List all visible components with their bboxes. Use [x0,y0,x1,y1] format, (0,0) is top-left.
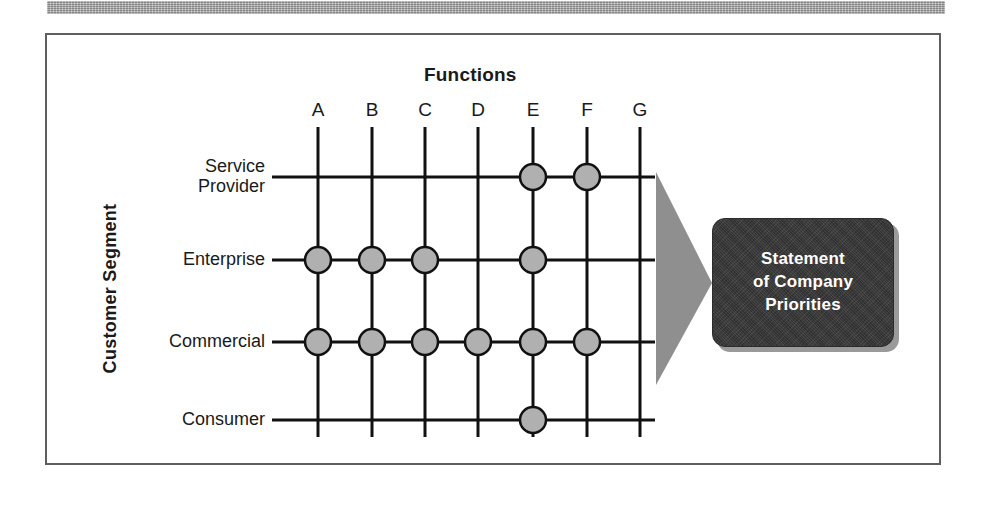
row-label-enterprise: Enterprise [90,249,265,269]
result-box-line-2: of Company [753,272,853,291]
marker-service-provider-F [574,164,600,190]
column-label-E: E [518,99,548,120]
result-box-line-1: Statement [761,249,845,268]
marker-enterprise-E [520,247,546,273]
marker-enterprise-B [359,247,385,273]
column-label-B: B [357,99,387,120]
marker-service-provider-E [520,164,546,190]
marker-commercial-E [520,329,546,355]
result-box-text: Statement of Company Priorities [753,248,853,317]
column-label-D: D [463,99,493,120]
marker-commercial-A [305,329,331,355]
row-label-commercial: Commercial [90,331,265,351]
marker-commercial-F [574,329,600,355]
column-label-A: A [303,99,333,120]
marker-enterprise-C [412,247,438,273]
right-arrow-icon [656,172,712,385]
marker-commercial-B [359,329,385,355]
arrow-to-result [656,172,712,385]
marker-commercial-C [412,329,438,355]
marker-consumer-E [520,407,546,433]
result-box: Statement of Company Priorities [712,218,894,347]
grid-horizontal-lines [272,177,655,420]
grid-markers [305,164,600,433]
row-label-consumer: Consumer [90,409,265,429]
column-label-G: G [625,99,655,120]
result-box-line-3: Priorities [765,295,841,314]
column-label-F: F [572,99,602,120]
column-label-C: C [410,99,440,120]
marker-commercial-D [465,329,491,355]
marker-enterprise-A [305,247,331,273]
row-label-service-provider: ServiceProvider [90,156,265,196]
